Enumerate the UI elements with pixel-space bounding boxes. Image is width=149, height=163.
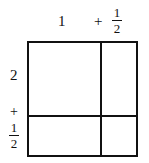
left-label-plus: +	[10, 105, 18, 119]
left-fraction-denominator: 2	[11, 137, 18, 150]
top-label-fraction: 1 2	[112, 6, 122, 35]
left-label-fraction: 1 2	[9, 121, 19, 150]
top-label-plus: +	[94, 14, 102, 29]
area-model-rectangle	[27, 41, 138, 157]
left-fraction-numerator: 1	[11, 121, 18, 134]
vertical-divider	[100, 41, 102, 157]
top-label-whole: 1	[58, 14, 66, 29]
top-fraction-denominator: 2	[114, 22, 121, 35]
horizontal-divider	[27, 115, 138, 117]
left-label-whole: 2	[10, 68, 18, 83]
top-fraction-numerator: 1	[114, 6, 121, 19]
